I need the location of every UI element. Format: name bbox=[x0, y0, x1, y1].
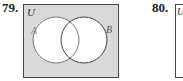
universe-label-80: U bbox=[177, 6, 183, 17]
problem-number-79: 79. bbox=[2, 0, 18, 16]
set-b-label: B bbox=[106, 24, 112, 35]
set-a-label: A bbox=[30, 25, 38, 36]
problem-number-80: 80. bbox=[152, 0, 168, 16]
venn-diagram-79: U A B bbox=[23, 4, 119, 78]
universe-label: U bbox=[27, 6, 36, 18]
venn-diagram-80: U bbox=[175, 4, 183, 78]
